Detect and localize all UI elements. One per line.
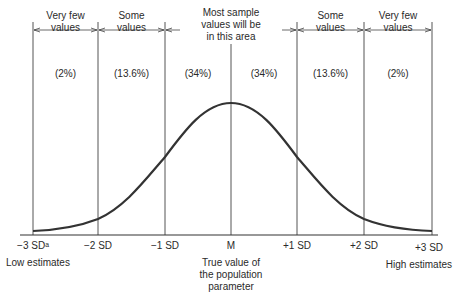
percent-2-right: (2%) — [364, 68, 432, 80]
region-label-very-few-right: Very fewvalues — [364, 10, 432, 34]
bell-curve — [33, 103, 432, 231]
low-estimates-label: Low estimates — [6, 257, 86, 269]
tick-minus-2sd: −2 SD — [73, 240, 123, 252]
percent-13-6-left: (13.6%) — [98, 68, 165, 80]
tick-minus-1sd: −1 SD — [140, 240, 190, 252]
percent-34-right: (34%) — [231, 68, 297, 80]
true-value-label: True value ofthe populationparameter — [181, 257, 281, 293]
region-label-some-left: Somevalues — [98, 10, 165, 34]
region-label-some-right: Somevalues — [297, 10, 364, 34]
sd-lines — [33, 22, 432, 235]
percent-2-left: (2%) — [33, 68, 98, 80]
high-estimates-label: High estimates — [362, 259, 452, 271]
percent-34-left: (34%) — [165, 68, 231, 80]
percent-13-6-right: (13.6%) — [297, 68, 364, 80]
normal-curve-diagram — [0, 0, 459, 297]
tick-plus-3sd: +3 SD — [404, 242, 454, 254]
tick-minus-3sd: −3 SDᵃ — [8, 240, 58, 252]
tick-plus-1sd: +1 SD — [272, 240, 322, 252]
tick-mean: M — [206, 240, 256, 252]
tick-plus-2sd: +2 SD — [339, 240, 389, 252]
region-label-very-few-left: Very fewvalues — [33, 10, 98, 34]
region-label-most: Most samplevalues will bein this area — [180, 7, 282, 43]
